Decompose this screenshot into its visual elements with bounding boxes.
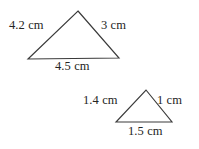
small-triangle-base-label: 1.5 cm [128, 125, 163, 138]
large-triangle-right-side-label: 3 cm [101, 19, 126, 32]
large-triangle-left-side-label: 4.2 cm [9, 19, 44, 32]
large-triangle-base-label: 4.5 cm [55, 60, 90, 73]
small-triangle-right-side-label: 1 cm [157, 94, 182, 107]
geometry-diagram: 4.2 cm 3 cm 4.5 cm 1.4 cm 1 cm 1.5 cm [0, 0, 199, 149]
small-triangle-left-side-label: 1.4 cm [83, 94, 118, 107]
